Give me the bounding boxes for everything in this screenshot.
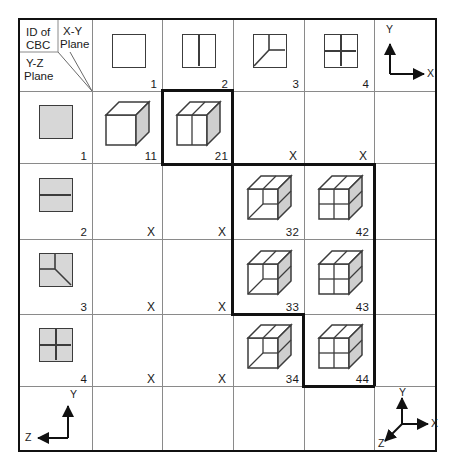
axis-indicator-yz: Y Z [20, 386, 92, 452]
matrix-cell-32[interactable]: 32 [233, 163, 304, 239]
cell-invalid-mark: X [289, 150, 297, 162]
cell-invalid-mark: X [218, 373, 226, 385]
axis-label-z: Z [25, 431, 31, 443]
column-header-3: 3 [233, 20, 304, 91]
matrix-cell-r4c1[interactable]: X [92, 314, 162, 386]
cube-glyph-plain [102, 99, 164, 155]
cell-label: 42 [356, 226, 369, 238]
corner-header-cell: ID of CBC X-Y Plane Y-Z Plane [20, 20, 92, 91]
matrix-cell-r3c1[interactable]: X [92, 239, 162, 314]
matrix-cell-33[interactable]: 33 [233, 239, 304, 314]
cell-invalid-mark: X [147, 373, 155, 385]
square-glyph-horizontal-split-filled [39, 178, 73, 212]
cell-invalid-mark: X [218, 226, 226, 238]
cell-label: 33 [286, 301, 299, 313]
square-glyph-four-quadrant-filled [39, 328, 73, 362]
row-header-2: 2 [20, 163, 92, 239]
square-glyph-plain [112, 34, 146, 68]
cube-glyph-quarter-diagonal [244, 322, 306, 378]
row-header-3: 3 [20, 239, 92, 314]
column-header-label: 3 [292, 78, 299, 90]
split-line-vertical [198, 35, 200, 66]
split-line-horizontal [325, 50, 356, 52]
matrix-cell-42[interactable]: 42 [304, 163, 374, 239]
cube-glyph-vertical-split [173, 99, 235, 155]
matrix-cell-21[interactable]: 21 [162, 91, 233, 163]
matrix-cell-r1c3[interactable]: X [233, 91, 304, 163]
row-header-4: 4 [20, 314, 92, 386]
split-line-horizontal [40, 194, 71, 196]
column-header-label: 1 [150, 78, 157, 90]
cube-glyph-quarter-diagonal [244, 173, 306, 229]
square-glyph-quarter-diagonal-filled [39, 253, 73, 287]
axis-label-x: X [427, 67, 434, 79]
column-header-1: 1 [92, 20, 162, 91]
axis-label-z: Z [378, 437, 384, 449]
matrix-cell-44[interactable]: 44 [304, 314, 374, 386]
axis-label-y: Y [70, 388, 77, 400]
matrix-cell-r4c2[interactable]: X [162, 314, 233, 386]
axis-indicator-xyz: Y X Z [374, 386, 439, 452]
column-header-label: 2 [221, 78, 228, 90]
split-line-horizontal [40, 344, 71, 346]
cube-glyph-quarter-diagonal [244, 248, 306, 304]
cell-label: 21 [215, 150, 228, 162]
cell-invalid-mark: X [218, 301, 226, 313]
axis-indicator-xy: Y X [374, 20, 439, 91]
cell-label: 43 [356, 301, 369, 313]
cbc-matrix: ID of CBC X-Y Plane Y-Z Plane 1 2 [18, 18, 437, 452]
cell-label: 34 [286, 373, 299, 385]
corner-divider-lines [20, 20, 92, 91]
matrix-cell-43[interactable]: 43 [304, 239, 374, 314]
column-header-2: 2 [162, 20, 233, 91]
row-header-label: 3 [80, 301, 87, 313]
matrix-cell-r2c1[interactable]: X [92, 163, 162, 239]
axis-label-y: Y [399, 386, 406, 398]
matrix-cell-r1c4[interactable]: X [304, 91, 374, 163]
cube-glyph-four-quadrant [315, 322, 377, 378]
matrix-cell-r2c2[interactable]: X [162, 163, 233, 239]
square-glyph-plain-filled [39, 105, 73, 139]
cell-label: 11 [145, 150, 157, 162]
cell-label: 32 [286, 226, 299, 238]
cell-label: 44 [356, 373, 369, 385]
row-header-label: 2 [80, 226, 87, 238]
matrix-cell-r3c2[interactable]: X [162, 239, 233, 314]
square-glyph-vertical-split [182, 34, 216, 68]
axis-label-x: X [431, 417, 438, 429]
row-header-1: 1 [20, 91, 92, 163]
cube-glyph-four-quadrant [315, 248, 377, 304]
row-header-label: 1 [80, 150, 87, 162]
cell-invalid-mark: X [359, 150, 367, 162]
column-header-label: 4 [362, 78, 369, 90]
column-header-4: 4 [304, 20, 374, 91]
matrix-cell-34[interactable]: 34 [233, 314, 304, 386]
square-glyph-four-quadrant [324, 34, 358, 68]
cell-invalid-mark: X [147, 301, 155, 313]
cube-glyph-four-quadrant [315, 173, 377, 229]
axis-label-y: Y [386, 23, 393, 35]
square-glyph-quarter-diagonal [253, 34, 287, 68]
row-header-label: 4 [80, 373, 87, 385]
cell-invalid-mark: X [147, 226, 155, 238]
matrix-cell-11[interactable]: 11 [92, 91, 162, 163]
